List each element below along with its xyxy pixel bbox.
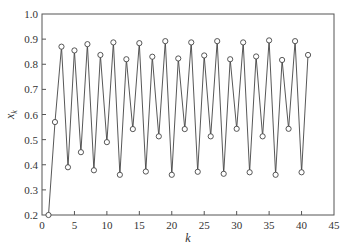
x-tick-label: 35 — [264, 219, 276, 231]
data-point-marker — [241, 40, 246, 45]
y-tick-label: 0.3 — [24, 184, 38, 196]
y-tick-label: 0.8 — [24, 58, 38, 70]
series-line — [49, 40, 309, 215]
data-point-marker — [305, 52, 310, 57]
data-point-marker — [156, 134, 161, 139]
y-tick-label: 0.7 — [24, 83, 38, 95]
data-point-marker — [137, 41, 142, 46]
x-axis-ticks: 051015202530354045 — [39, 211, 340, 231]
y-tick-label: 0.4 — [24, 159, 38, 171]
data-point-marker — [234, 126, 239, 131]
data-point-marker — [292, 39, 297, 44]
data-point-marker — [208, 134, 213, 139]
data-point-marker — [247, 170, 252, 175]
data-point-marker — [91, 168, 96, 173]
data-point-marker — [267, 38, 272, 43]
data-point-marker — [111, 40, 116, 45]
x-tick-label: 30 — [231, 219, 243, 231]
x-axis-label: k — [185, 231, 191, 245]
y-tick-label: 0.9 — [24, 33, 38, 45]
data-point-marker — [254, 54, 259, 59]
data-point-marker — [78, 150, 83, 155]
data-point-marker — [279, 57, 284, 62]
y-axis-label-subscript: k — [10, 110, 19, 114]
y-axis-label: xk — [3, 110, 19, 120]
data-point-marker — [46, 212, 51, 217]
data-point-marker — [182, 126, 187, 131]
data-point-marker — [143, 169, 148, 174]
data-point-marker — [215, 39, 220, 44]
y-tick-label: 0.5 — [24, 134, 38, 146]
x-tick-label: 5 — [72, 219, 78, 231]
data-point-marker — [59, 44, 64, 49]
data-point-marker — [176, 56, 181, 61]
chart: 0.20.30.40.50.60.70.80.91.0 051015202530… — [0, 0, 349, 251]
x-tick-label: 10 — [101, 219, 113, 231]
data-point-marker — [72, 48, 77, 53]
data-point-marker — [286, 126, 291, 131]
data-point-marker — [150, 54, 155, 59]
y-tick-label: 0.6 — [24, 109, 38, 121]
x-tick-label: 15 — [134, 219, 146, 231]
y-tick-label: 1.0 — [24, 8, 38, 20]
data-point-marker — [52, 119, 57, 124]
data-point-marker — [273, 172, 278, 177]
data-point-marker — [169, 172, 174, 177]
y-axis-ticks: 0.20.30.40.50.60.70.80.91.0 — [24, 8, 46, 221]
data-series — [46, 38, 311, 218]
data-point-marker — [299, 170, 304, 175]
data-point-marker — [130, 126, 135, 131]
data-point-marker — [189, 40, 194, 45]
x-tick-label: 20 — [166, 219, 178, 231]
x-tick-label: 45 — [329, 219, 341, 231]
data-point-marker — [260, 134, 265, 139]
data-point-marker — [117, 172, 122, 177]
data-point-marker — [221, 171, 226, 176]
data-point-marker — [228, 57, 233, 62]
y-tick-label: 0.2 — [24, 209, 38, 221]
x-tick-label: 0 — [39, 219, 45, 231]
x-tick-label: 40 — [296, 219, 308, 231]
data-point-marker — [98, 52, 103, 57]
data-point-marker — [124, 57, 129, 62]
data-point-marker — [85, 42, 90, 47]
data-point-marker — [104, 140, 109, 145]
data-point-marker — [163, 39, 168, 44]
data-point-marker — [202, 53, 207, 58]
data-point-marker — [65, 165, 70, 170]
data-point-marker — [195, 169, 200, 174]
x-tick-label: 25 — [199, 219, 211, 231]
